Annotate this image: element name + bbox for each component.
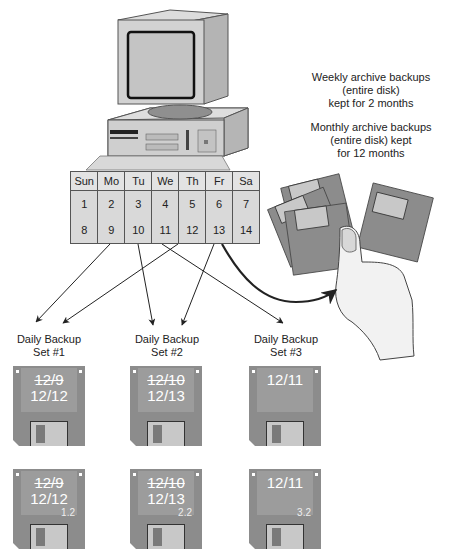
new-date: 12/12 xyxy=(13,491,85,507)
calendar-day: 10 xyxy=(125,217,152,244)
new-date: 12/13 xyxy=(130,388,202,404)
new-date: 12/13 xyxy=(130,491,202,507)
set-1-title: Daily Backup Set #1 xyxy=(4,333,94,359)
floppy-disk-set1-2: 12/9 12/12 1.2 xyxy=(13,469,85,549)
calendar-header: Mo xyxy=(98,172,125,191)
floppy-disk-set3-2: 12/11 3.2 xyxy=(249,469,321,549)
disk-shutter xyxy=(266,524,304,549)
calendar-header: Fr xyxy=(206,172,233,191)
calendar-header: Sa xyxy=(233,172,260,191)
disk-number: 3.2 xyxy=(297,507,311,518)
set-title-line: Daily Backup xyxy=(241,333,331,346)
set-3-title: Daily Backup Set #3 xyxy=(241,333,331,359)
old-date: 12/10 xyxy=(130,475,202,491)
calendar-day: 4 xyxy=(152,191,179,218)
calendar-day: 8 xyxy=(71,217,98,244)
calendar-header: Tu xyxy=(125,172,152,191)
note-line: Monthly archive backups xyxy=(296,121,446,134)
weekly-archive-note: Weekly archive backups (entire disk) kep… xyxy=(296,71,446,110)
new-date: 12/12 xyxy=(13,388,85,404)
floppy-disk-set3-1: 12/11 xyxy=(249,366,321,446)
calendar-day: 14 xyxy=(233,217,260,244)
calendar-day: 7 xyxy=(233,191,260,218)
old-date: 12/9 xyxy=(13,372,85,388)
set-title-line: Set #2 xyxy=(122,346,212,359)
calendar: Sun Mo Tu We Th Fr Sa 1 2 3 4 5 6 7 8 9 … xyxy=(70,171,260,244)
calendar-day: 11 xyxy=(152,217,179,244)
note-line: for 12 months xyxy=(296,147,446,160)
disk-shutter xyxy=(266,421,304,446)
old-date: 12/9 xyxy=(13,475,85,491)
monthly-archive-note: Monthly archive backups (entire disk) ke… xyxy=(296,121,446,160)
calendar-day: 1 xyxy=(71,191,98,218)
calendar-day: 6 xyxy=(206,191,233,218)
set-title-line: Daily Backup xyxy=(4,333,94,346)
calendar-day: 12 xyxy=(179,217,206,244)
note-line: Weekly archive backups xyxy=(296,71,446,84)
disk-shutter xyxy=(30,524,68,549)
disk-number: 1.2 xyxy=(61,507,75,518)
disk-shutter xyxy=(30,421,68,446)
calendar-day: 9 xyxy=(98,217,125,244)
floppy-disk-set1-1: 12/9 12/12 xyxy=(13,366,85,446)
calendar-header: We xyxy=(152,172,179,191)
note-line: (entire disk) kept xyxy=(296,134,446,147)
floppy-disk-set2-1: 12/10 12/13 xyxy=(130,366,202,446)
floppy-disk-set2-2: 12/10 12/13 2.2 xyxy=(130,469,202,549)
calendar-day: 5 xyxy=(179,191,206,218)
disk-shutter xyxy=(147,421,185,446)
set-title-line: Set #3 xyxy=(241,346,331,359)
set-title-line: Daily Backup xyxy=(122,333,212,346)
disk-shutter xyxy=(147,524,185,549)
computer-icon xyxy=(86,10,248,170)
calendar-day: 2 xyxy=(98,191,125,218)
calendar-header: Sun xyxy=(71,172,98,191)
disk-number: 2.2 xyxy=(178,507,192,518)
note-line: (entire disk) xyxy=(296,84,446,97)
note-line: kept for 2 months xyxy=(296,97,446,110)
arrow-10-to-set2 xyxy=(138,244,153,325)
arrow-13-to-set2 xyxy=(182,244,214,325)
old-date: 12/10 xyxy=(130,372,202,388)
set-title-line: Set #1 xyxy=(4,346,94,359)
arrow-12-to-set1 xyxy=(63,244,178,323)
calendar-header: Th xyxy=(179,172,206,191)
calendar-day: 3 xyxy=(125,191,152,218)
arrow-11-to-set3 xyxy=(162,244,283,323)
new-date: 12/11 xyxy=(249,372,321,388)
calendar-day: 13 xyxy=(206,217,233,244)
set-2-title: Daily Backup Set #2 xyxy=(122,333,212,359)
new-date: 12/11 xyxy=(249,475,321,491)
arrow-9-to-set1 xyxy=(36,244,110,322)
